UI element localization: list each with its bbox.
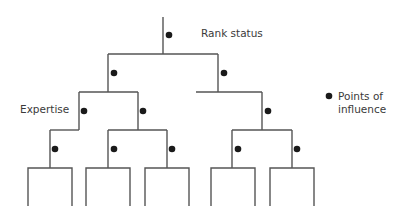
- leaf-4: [211, 168, 255, 206]
- influence-dot-icon: [140, 108, 147, 115]
- influence-dot-icon: [294, 146, 301, 153]
- leaf-3: [145, 168, 189, 206]
- leaf-1: [28, 168, 72, 206]
- leaf-2: [86, 168, 130, 206]
- influence-dot-icon: [166, 32, 173, 39]
- legend-line-2: influence: [338, 103, 386, 116]
- expertise-label: Expertise: [20, 103, 69, 116]
- right-subtree: [196, 54, 292, 168]
- leaf-nodes: [28, 168, 314, 206]
- legend-line-1: Points of: [338, 90, 383, 103]
- influence-dot-icon: [265, 108, 272, 115]
- influence-dot-icon: [111, 70, 118, 77]
- influence-dot-icon: [221, 70, 228, 77]
- influence-dot-icon: [81, 108, 88, 115]
- influence-dot-icon: [235, 146, 242, 153]
- hierarchy-diagram: Rank status Expertise Points of influenc…: [0, 0, 394, 221]
- influence-dot-icon: [52, 146, 59, 153]
- legend-dot-icon: [326, 93, 333, 100]
- leaf-5: [270, 168, 314, 206]
- influence-dot-icon: [169, 146, 176, 153]
- influence-dot-icon: [111, 146, 118, 153]
- rank-status-label: Rank status: [201, 27, 263, 40]
